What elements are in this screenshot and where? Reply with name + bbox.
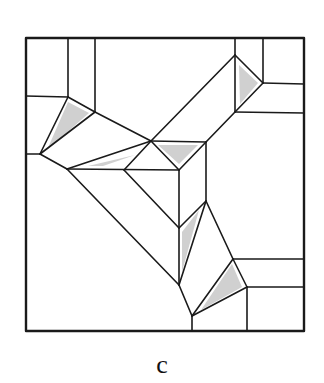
shaded-triangles — [47, 65, 258, 310]
figure-caption: c — [0, 350, 324, 380]
crease-lines — [26, 38, 304, 331]
shade-lower-mid — [182, 210, 199, 272]
shade-lower-right — [201, 264, 242, 310]
shade-center-left — [88, 155, 135, 166]
crease-pattern-diagram — [0, 0, 324, 383]
